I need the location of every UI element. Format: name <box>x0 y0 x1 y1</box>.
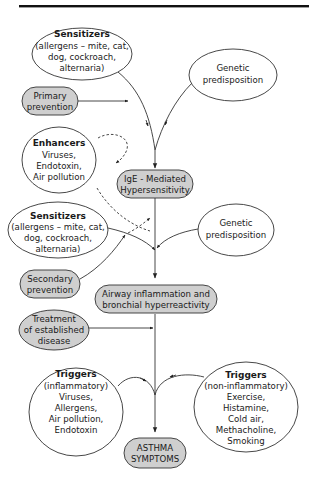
enhancers-node: Enhancers Viruses, Endotoxin, Air pollut… <box>22 127 96 193</box>
svg-text:predisposition: predisposition <box>203 75 263 85</box>
svg-text:Air pollution: Air pollution <box>33 172 85 182</box>
triggers-inflammatory-node: Triggers (inflammatory) Viruses, Allerge… <box>29 368 123 456</box>
secondary-prevention-node: Secondary prevention <box>20 270 80 298</box>
svg-text:Hypersensitivity: Hypersensitivity <box>120 185 190 195</box>
svg-text:alternaria): alternaria) <box>36 244 81 254</box>
genetic-predisposition-node-1: Genetic predisposition <box>189 49 277 101</box>
svg-text:Treatment: Treatment <box>31 314 76 324</box>
svg-text:alternaria): alternaria) <box>60 63 105 73</box>
svg-text:dog, cockroach,: dog, cockroach, <box>48 52 116 62</box>
sensitizers-node-1: Sensitizers (allergens – mite, cat, dog,… <box>32 28 132 80</box>
sensitizers-node-2: Sensitizers (allergens – mite, cat, dog,… <box>8 202 108 258</box>
top-rule <box>19 5 309 7</box>
treatment-node: Treatment of established disease <box>19 310 89 350</box>
svg-text:Methacholine,: Methacholine, <box>216 425 276 435</box>
asthma-symptoms-node: ASTHMA SYMPTOMS <box>124 438 186 468</box>
svg-text:Exercise,: Exercise, <box>227 392 266 402</box>
svg-text:Sensitizers: Sensitizers <box>54 29 110 39</box>
svg-text:Smoking: Smoking <box>227 436 264 446</box>
svg-text:Genetic: Genetic <box>219 218 252 228</box>
svg-text:Endotoxin: Endotoxin <box>55 425 98 435</box>
svg-text:Primary: Primary <box>33 91 66 101</box>
svg-text:(allergens – mite, cat,: (allergens – mite, cat, <box>35 41 128 51</box>
primary-prevention-node: Primary prevention <box>22 87 78 115</box>
svg-text:prevention: prevention <box>27 285 73 295</box>
svg-text:Triggers: Triggers <box>225 370 266 380</box>
connector <box>118 377 155 395</box>
svg-text:Allergens,: Allergens, <box>55 403 98 413</box>
svg-text:Secondary: Secondary <box>27 274 73 284</box>
svg-text:Sensitizers: Sensitizers <box>30 211 86 221</box>
svg-text:of established: of established <box>24 325 84 335</box>
svg-text:Enhancers: Enhancers <box>33 138 86 148</box>
svg-text:Triggers: Triggers <box>55 369 96 379</box>
ige-mediated-hypersensitivity-node: IgE - Mediated Hypersensitivity <box>117 170 193 198</box>
svg-text:Viruses,: Viruses, <box>42 150 76 160</box>
svg-text:Viruses,: Viruses, <box>59 392 93 402</box>
svg-text:ASTHMA: ASTHMA <box>137 443 173 453</box>
svg-text:(allergens – mite, cat,: (allergens – mite, cat, <box>11 222 104 232</box>
svg-text:SYMPTOMS: SYMPTOMS <box>131 454 179 464</box>
airway-inflammation-node: Airway inflammation and bronchial hyperr… <box>95 285 217 313</box>
svg-text:Air pollution,: Air pollution, <box>49 414 104 424</box>
connector <box>118 72 155 150</box>
svg-text:IgE - Mediated: IgE - Mediated <box>124 174 186 184</box>
svg-text:Cold air,: Cold air, <box>228 414 264 424</box>
svg-text:Histamine,: Histamine, <box>223 403 269 413</box>
enhancer-dashed-arrow <box>98 134 127 163</box>
svg-text:disease: disease <box>38 336 71 346</box>
svg-text:Genetic: Genetic <box>216 63 249 73</box>
svg-text:bronchial hyperreactivity: bronchial hyperreactivity <box>102 300 209 310</box>
svg-text:prevention: prevention <box>27 102 73 112</box>
svg-text:predisposition: predisposition <box>206 230 266 240</box>
triggers-noninflammatory-node: Triggers (non-inflammatory) Exercise, Hi… <box>194 362 298 452</box>
svg-text:dog, cockroach,: dog, cockroach, <box>24 233 92 243</box>
svg-text:Airway inflammation and: Airway inflammation and <box>102 289 210 299</box>
connector <box>155 83 192 150</box>
svg-text:Endotoxin,: Endotoxin, <box>36 161 82 171</box>
asthma-pathway-diagram: Sensitizers (allergens – mite, cat, dog,… <box>0 0 309 482</box>
svg-text:(inflammatory): (inflammatory) <box>44 381 108 391</box>
svg-text:(non-inflammatory): (non-inflammatory) <box>204 381 288 391</box>
genetic-predisposition-node-2: Genetic predisposition <box>198 204 274 256</box>
